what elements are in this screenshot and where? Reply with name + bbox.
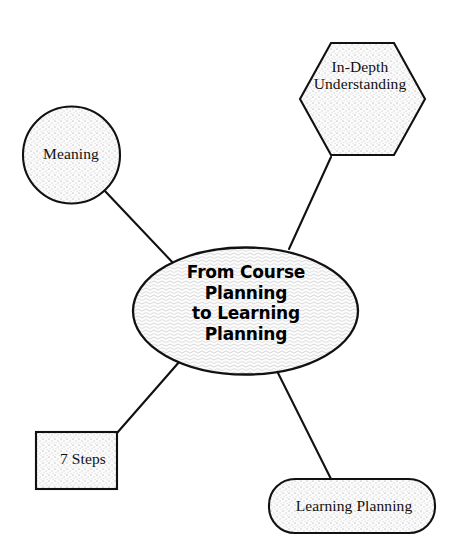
node-meaning-shape[interactable] bbox=[23, 107, 120, 204]
diagram-svg bbox=[0, 0, 468, 553]
center-node-shape[interactable] bbox=[133, 248, 358, 375]
node-7-steps-shape[interactable] bbox=[36, 432, 117, 489]
diagram-canvas: Meaning In-Depth Understanding From Cour… bbox=[0, 0, 468, 553]
connector-learning-planning bbox=[277, 371, 331, 479]
connector-in-depth-understanding bbox=[289, 157, 331, 249]
node-in-depth-understanding-shape[interactable] bbox=[300, 43, 425, 155]
connector-meaning bbox=[104, 190, 175, 265]
connector-7-steps bbox=[117, 361, 180, 433]
node-learning-planning-shape[interactable] bbox=[269, 479, 435, 533]
